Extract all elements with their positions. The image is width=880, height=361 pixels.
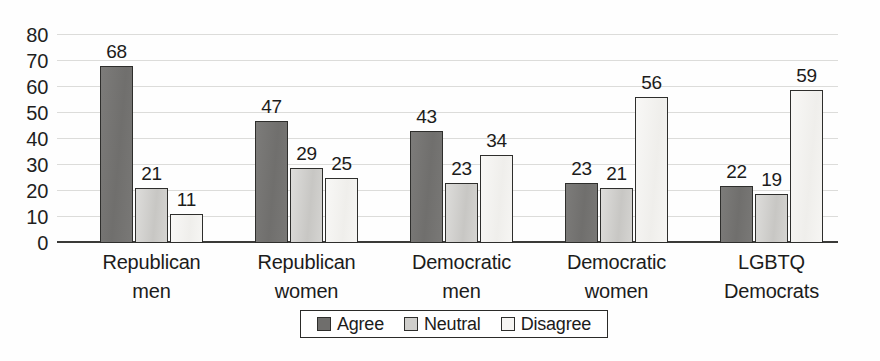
bar-rect	[135, 188, 168, 243]
y-axis-tick-label: 30	[4, 154, 48, 177]
bar-value-label: 59	[796, 65, 817, 87]
bar-group: 221959	[720, 35, 875, 243]
y-axis-tick-label: 40	[4, 128, 48, 151]
bar-disagree: 34	[480, 155, 513, 243]
bar-value-label: 56	[641, 72, 662, 94]
bar-rect	[290, 168, 323, 243]
bar-rect	[755, 194, 788, 243]
bar-value-label: 47	[261, 96, 282, 118]
y-axis-tick-label: 20	[4, 180, 48, 203]
bar-value-label: 23	[571, 158, 592, 180]
bar-neutral: 21	[600, 188, 633, 243]
bar-disagree: 59	[790, 90, 823, 243]
bar-agree: 68	[100, 66, 133, 243]
x-axis-category-label: LGBTQDemocrats	[682, 248, 862, 306]
bar-chart: 01020304050607080 6821114729254323342321…	[0, 0, 880, 361]
bar-rect	[635, 97, 668, 243]
bar-rect	[255, 121, 288, 243]
y-axis-tick-label: 70	[4, 50, 48, 73]
bar-group: 472925	[255, 35, 410, 243]
legend-label: Disagree	[521, 314, 591, 335]
bar-neutral: 29	[290, 168, 323, 243]
bar-groups: 682111472925432334232156221959	[57, 35, 838, 243]
bar-value-label: 19	[761, 169, 782, 191]
bar-value-label: 29	[296, 143, 317, 165]
bar-value-label: 68	[106, 41, 127, 63]
legend-item-neutral: Neutral	[404, 314, 481, 335]
bar-neutral: 21	[135, 188, 168, 243]
bar-group: 232156	[565, 35, 720, 243]
y-axis-tick-label: 50	[4, 102, 48, 125]
bar-rect	[480, 155, 513, 243]
legend-swatch-icon	[501, 317, 515, 331]
bar-value-label: 43	[416, 106, 437, 128]
bar-group: 682111	[100, 35, 255, 243]
bar-rect	[100, 66, 133, 243]
bar-disagree: 25	[325, 178, 358, 243]
bar-rect	[720, 186, 753, 243]
y-axis-tick-label: 80	[4, 24, 48, 47]
x-axis-category-label: Democraticmen	[372, 248, 552, 306]
bar-value-label: 34	[486, 130, 507, 152]
bar-rect	[790, 90, 823, 243]
bar-rect	[325, 178, 358, 243]
bar-value-label: 21	[141, 163, 162, 185]
x-axis-category-label: Democraticwomen	[527, 248, 707, 306]
chart-legend: AgreeNeutralDisagree	[300, 310, 608, 338]
legend-swatch-icon	[404, 317, 418, 331]
bar-rect	[565, 183, 598, 243]
bar-agree: 23	[565, 183, 598, 243]
bar-value-label: 11	[177, 189, 196, 211]
y-axis-tick-label: 0	[4, 232, 48, 255]
bar-group: 432334	[410, 35, 565, 243]
y-axis-tick-label: 10	[4, 206, 48, 229]
legend-swatch-icon	[317, 317, 331, 331]
bar-value-label: 22	[726, 161, 747, 183]
bar-value-label: 23	[451, 158, 472, 180]
legend-label: Neutral	[424, 314, 481, 335]
legend-label: Agree	[337, 314, 384, 335]
bar-value-label: 21	[606, 163, 627, 185]
bar-agree: 43	[410, 131, 443, 243]
bar-neutral: 23	[445, 183, 478, 243]
y-axis-tick-label: 60	[4, 76, 48, 99]
legend-item-disagree: Disagree	[501, 314, 591, 335]
bar-agree: 22	[720, 186, 753, 243]
bar-rect	[170, 214, 203, 243]
x-axis-category-label: Republicanwomen	[217, 248, 397, 306]
bar-agree: 47	[255, 121, 288, 243]
bar-value-label: 25	[331, 153, 352, 175]
bar-neutral: 19	[755, 194, 788, 243]
bar-disagree: 56	[635, 97, 668, 243]
bar-rect	[410, 131, 443, 243]
legend-item-agree: Agree	[317, 314, 384, 335]
bar-rect	[600, 188, 633, 243]
bar-rect	[445, 183, 478, 243]
x-axis-category-label: Republicanmen	[62, 248, 242, 306]
bar-disagree: 11	[170, 214, 203, 243]
